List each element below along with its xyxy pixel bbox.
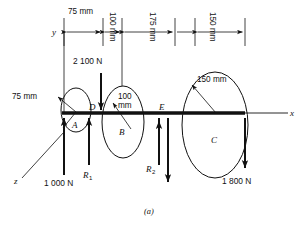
radius-label-A-75mm: 75 mm (12, 92, 37, 101)
axis-label-y: y (51, 27, 56, 37)
point-label-E: E (158, 102, 165, 112)
dimension-label-150mm: 150 mm (208, 12, 217, 42)
radius-label-B-100: 100 (118, 92, 132, 101)
axis-label-z: z (13, 176, 18, 186)
figure-container: 75 mm 100 mm 175 mm 150 mm y x A B C 75 … (0, 0, 304, 226)
reaction-label-R1: R (82, 170, 89, 180)
axis-label-x: x (289, 108, 294, 118)
part-label-A: A (71, 120, 78, 130)
dimension-label-175mm: 175 mm (148, 12, 157, 42)
reaction-label-R1-subscript: 1 (89, 175, 93, 181)
force-label-1800N: 1 800 N (222, 176, 251, 186)
dimension-label-100mm: 100 mm (108, 12, 117, 42)
radius-label-C-150mm: 150 mm (197, 75, 227, 84)
force-label-1000N: 1 000 N (44, 178, 73, 188)
point-label-D: D (88, 102, 96, 112)
dimension-label-75mm-horizontal: 75 mm (68, 7, 93, 16)
z-axis-line (22, 132, 64, 178)
reaction-label-R2-subscript: 2 (152, 169, 156, 175)
part-label-B: B (119, 127, 125, 137)
part-ellipse-C (182, 72, 248, 178)
radius-leader-C (192, 85, 216, 113)
reaction-label-R2: R (145, 164, 152, 174)
shaft-loading-diagram: 75 mm 100 mm 175 mm 150 mm y x A B C 75 … (0, 0, 304, 226)
force-label-2100N: 2 100 N (73, 56, 102, 66)
radius-label-B-mm: mm (118, 101, 132, 110)
figure-caption: (a) (144, 207, 154, 216)
part-label-C: C (211, 135, 218, 145)
